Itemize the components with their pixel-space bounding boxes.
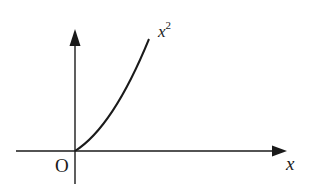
curve-label-exponent: 2 [166,19,172,31]
parabola-diagram: x2 O x [0,0,314,193]
x-axis-arrow-icon [272,146,287,157]
parabola-curve [75,39,149,151]
x-axis-label: x [285,153,295,174]
curve-label: x2 [157,19,171,41]
origin-label: O [55,155,69,176]
y-axis [70,29,81,184]
y-axis-arrow-icon [70,29,81,46]
